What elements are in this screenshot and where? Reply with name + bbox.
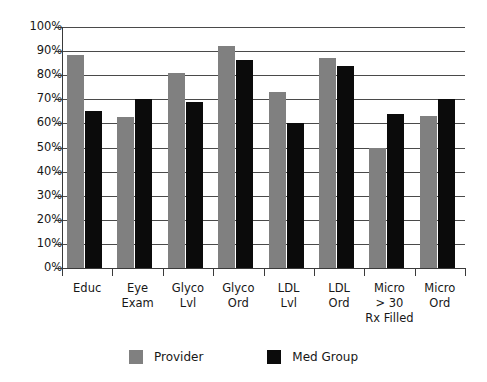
y-axis-tick-mark bbox=[55, 27, 62, 28]
x-axis-category-label: LDL Lvl bbox=[264, 281, 314, 311]
bar-provider bbox=[117, 117, 134, 268]
bar-group bbox=[264, 27, 314, 268]
x-axis-tick-mark bbox=[163, 268, 164, 276]
x-axis-tick-mark bbox=[465, 268, 466, 276]
y-axis-tick-mark bbox=[55, 123, 62, 124]
y-axis-tick-mark bbox=[55, 99, 62, 100]
bar-group bbox=[213, 27, 263, 268]
x-axis-tick-mark bbox=[112, 268, 113, 276]
y-axis-tick-mark bbox=[55, 172, 62, 173]
x-axis-tick-mark bbox=[314, 268, 315, 276]
bar-group bbox=[62, 27, 112, 268]
x-axis-tick-mark bbox=[62, 268, 63, 276]
y-axis-tick-mark bbox=[55, 268, 62, 269]
x-axis-tick-mark bbox=[364, 268, 365, 276]
y-axis-tick-mark bbox=[55, 196, 62, 197]
bar-provider bbox=[218, 46, 235, 268]
y-axis-tick-mark bbox=[55, 75, 62, 76]
legend-swatch-med-group-icon bbox=[267, 350, 281, 364]
bar-medgroup bbox=[135, 99, 152, 268]
x-axis-tick-mark bbox=[264, 268, 265, 276]
bar-group bbox=[415, 27, 465, 268]
legend-item[interactable]: Provider bbox=[129, 350, 203, 364]
bar-provider bbox=[67, 55, 84, 268]
x-axis-category-label: LDL Ord bbox=[314, 281, 364, 311]
legend-swatch-provider-icon bbox=[129, 350, 143, 364]
bar-medgroup bbox=[337, 66, 354, 268]
bar-medgroup bbox=[438, 99, 455, 268]
y-axis-tick-mark bbox=[55, 148, 62, 149]
y-axis-tick-mark bbox=[55, 51, 62, 52]
y-axis-tick-mark bbox=[55, 220, 62, 221]
x-axis-tick-mark bbox=[213, 268, 214, 276]
legend-label: Med Group bbox=[292, 350, 358, 364]
x-axis-category-label: Educ bbox=[62, 281, 112, 296]
y-axis-line bbox=[62, 27, 63, 269]
bar-group bbox=[163, 27, 213, 268]
bar-medgroup bbox=[186, 102, 203, 268]
bar-group bbox=[112, 27, 162, 268]
x-axis-category-label: Glyco Ord bbox=[213, 281, 263, 311]
bar-medgroup bbox=[85, 111, 102, 268]
bar-chart: 100%90%80%70%60%50%40%30%20%10%0% EducEy… bbox=[0, 0, 487, 382]
x-axis-category-label: Glyco Lvl bbox=[163, 281, 213, 311]
bar-provider bbox=[168, 73, 185, 268]
x-axis-category-label: Eye Exam bbox=[112, 281, 162, 311]
x-axis-tick-mark bbox=[415, 268, 416, 276]
bar-group bbox=[364, 27, 414, 268]
bar-provider bbox=[319, 58, 336, 268]
legend-item[interactable]: Med Group bbox=[267, 350, 358, 364]
bar-provider bbox=[369, 148, 386, 269]
bar-medgroup bbox=[387, 114, 404, 268]
bar-group bbox=[314, 27, 364, 268]
x-axis-line bbox=[56, 268, 465, 269]
chart-legend: ProviderMed Group bbox=[0, 350, 487, 364]
bar-provider bbox=[420, 116, 437, 268]
x-axis-category-label: Micro Ord bbox=[415, 281, 465, 311]
y-axis-tick-mark bbox=[55, 244, 62, 245]
x-axis-category-label: Micro > 30 Rx Filled bbox=[364, 281, 414, 326]
plot-area bbox=[62, 27, 465, 268]
bar-medgroup bbox=[236, 60, 253, 268]
bar-provider bbox=[269, 92, 286, 268]
legend-label: Provider bbox=[154, 350, 203, 364]
bar-medgroup bbox=[287, 123, 304, 268]
